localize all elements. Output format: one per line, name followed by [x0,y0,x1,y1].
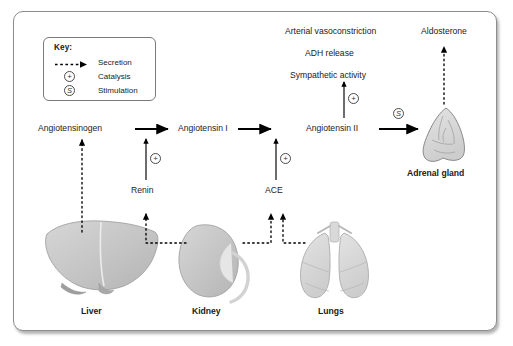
liver-illustration [46,221,158,294]
adrenal-gland-illustration [423,108,464,161]
catalysis-badge-renin: + [150,153,161,164]
catalysis-badge-ace: + [280,153,291,164]
circle-s-icon: S [393,108,404,119]
node-ace: ACE [265,185,283,195]
key-label-secretion: Secretion [98,58,132,67]
node-angiotensinogen: Angiotensinogen [38,123,102,133]
node-aldosterone: Aldosterone [421,26,467,36]
diagram-canvas: Key: Secretion + Catalysis S Stimulation… [0,0,513,346]
organ-label-kidney: Kidney [192,306,221,316]
key-legend: Key: Secretion + Catalysis S Stimulation [43,37,156,101]
kidney-illustration [179,225,248,302]
stimulation-badge-adrenal: S [393,108,404,119]
circle-plus-icon: + [280,153,291,164]
node-renin: Renin [131,185,153,195]
organ-label-liver: Liver [81,306,102,316]
circle-plus-icon: + [348,93,359,104]
organ-label-adrenal-gland: Adrenal gland [407,168,464,178]
node-angiotensin-i: Angiotensin I [178,123,228,133]
lungs-illustration [300,222,368,298]
key-label-catalysis: Catalysis [98,72,130,81]
key-heading: Key: [54,43,72,52]
key-label-stimulation: Stimulation [98,86,138,95]
node-angiotensin-ii: Angiotensin II [306,123,358,133]
effect-adh-release: ADH release [305,48,354,58]
circle-s-icon: S [54,85,94,98]
circle-plus-icon: + [150,153,161,164]
catalysis-badge-effects: + [348,93,359,104]
organ-label-lungs: Lungs [318,306,344,316]
dashed-arrow-icon [54,57,94,70]
circle-plus-icon: + [54,71,94,84]
effect-sympathetic-activity: Sympathetic activity [290,70,366,80]
effect-arterial-vasoconstriction: Arterial vasoconstriction [285,26,376,36]
